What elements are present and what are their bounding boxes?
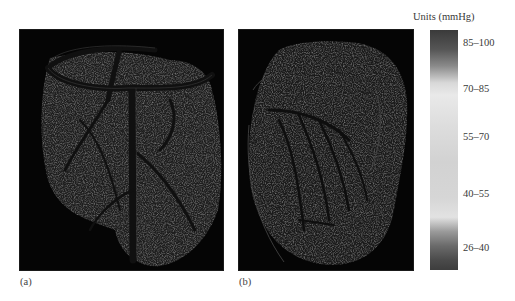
colorbar-label-26-40: 26–40 bbox=[463, 242, 489, 253]
colorbar-label-70-85: 70–85 bbox=[463, 83, 489, 94]
pressure-map-panel-a bbox=[20, 30, 223, 270]
panel-label-a: (a) bbox=[20, 276, 32, 287]
pressure-colorbar bbox=[430, 30, 458, 270]
colorbar-label-40-55: 40–55 bbox=[463, 188, 489, 199]
colorbar-label-85-100: 85–100 bbox=[463, 37, 495, 48]
panel-label-b: (b) bbox=[239, 276, 251, 287]
colorbar-title: Units (mmHg) bbox=[413, 11, 475, 22]
colorbar-label-55-70: 55–70 bbox=[463, 131, 489, 142]
organ-image-a bbox=[20, 30, 223, 270]
pressure-map-panel-b bbox=[239, 30, 413, 270]
organ-image-b bbox=[239, 30, 413, 270]
